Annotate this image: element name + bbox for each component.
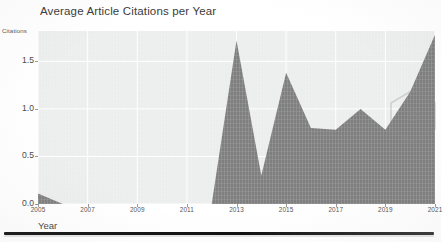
x-tick-label: 2017 — [328, 206, 343, 213]
x-tick-label: 2011 — [180, 206, 194, 213]
plot-area — [38, 31, 435, 204]
page-bottom-edge-shadow — [4, 235, 434, 237]
x-tick-label: 2015 — [279, 206, 294, 213]
x-tick-label: 2021 — [428, 206, 442, 213]
x-tick-mark — [385, 204, 386, 207]
citations-area-path — [38, 35, 435, 204]
y-tick-mark — [35, 156, 38, 157]
x-tick-label: 2019 — [378, 206, 393, 213]
y-tick-label: 0.5 — [0, 150, 34, 160]
y-tick-mark — [35, 109, 38, 110]
x-tick-label: 2013 — [229, 206, 244, 213]
x-tick-mark — [336, 204, 337, 207]
x-tick-mark — [38, 204, 39, 207]
y-tick-mark — [35, 61, 38, 62]
x-tick-label: 2005 — [31, 206, 46, 213]
x-tick-mark — [435, 204, 436, 207]
y-axis-label: Citations — [2, 27, 27, 34]
x-tick-mark — [187, 204, 188, 207]
y-tick-label: 1.0 — [0, 103, 34, 113]
x-tick-mark — [286, 204, 287, 207]
chart-title: Average Article Citations per Year — [40, 5, 216, 17]
area-chart-svg — [38, 31, 435, 204]
data-series-group — [38, 35, 435, 204]
x-tick-mark — [137, 204, 138, 207]
x-tick-label: 2007 — [80, 206, 95, 213]
x-tick-mark — [237, 204, 238, 207]
x-tick-mark — [88, 204, 89, 207]
y-tick-label: 1.5 — [0, 55, 34, 65]
y-tick-label: 0.0 — [0, 198, 34, 208]
x-tick-label: 2009 — [130, 206, 145, 213]
x-axis-label: Year — [38, 220, 57, 231]
